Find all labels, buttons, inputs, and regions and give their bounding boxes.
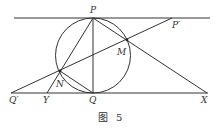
label-Q-prime: Q′ bbox=[9, 95, 18, 105]
caption-number: 5 bbox=[116, 112, 122, 123]
label-Q: Q bbox=[89, 95, 97, 105]
point-M bbox=[126, 39, 129, 42]
label-N: N bbox=[55, 79, 65, 89]
label-X: X bbox=[200, 95, 208, 105]
line-Qprime-Pprime bbox=[11, 18, 172, 93]
geometry-figure: P P′ M N Q′ Y Q X 图 5 bbox=[0, 0, 219, 130]
segment-PX bbox=[93, 18, 207, 93]
segment-PY bbox=[47, 18, 93, 93]
label-M: M bbox=[116, 47, 127, 57]
caption-prefix: 图 bbox=[98, 112, 108, 123]
label-P: P bbox=[89, 5, 97, 15]
label-Y: Y bbox=[43, 95, 50, 105]
label-P-prime: P′ bbox=[171, 20, 180, 30]
point-N bbox=[59, 70, 62, 73]
